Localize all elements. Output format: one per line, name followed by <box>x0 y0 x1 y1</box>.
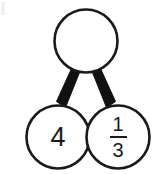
number-bond-figure: 4 1 3 <box>0 0 163 174</box>
connector-total-to-left <box>57 69 80 108</box>
total-circle[interactable] <box>55 10 118 73</box>
part-right-circle[interactable] <box>87 106 150 169</box>
part-left-circle[interactable] <box>27 106 90 169</box>
number-bond-graphic <box>0 0 163 174</box>
connector-total-to-right <box>93 69 116 108</box>
